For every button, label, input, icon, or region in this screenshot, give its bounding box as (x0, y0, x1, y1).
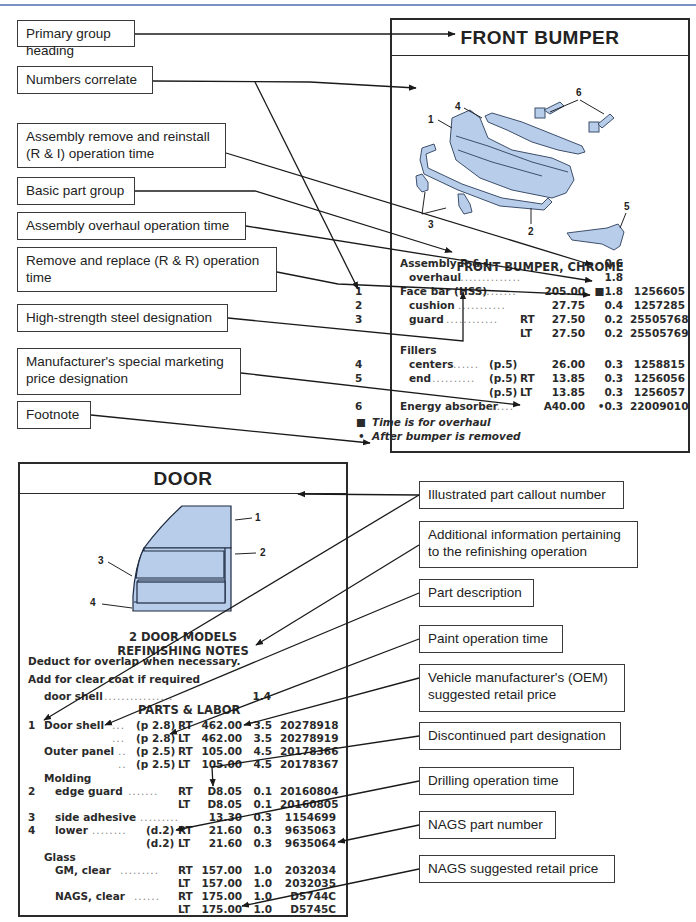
door-heading: DOOR (20, 464, 346, 494)
table-row: LT 157.00 1.0 2032035 (0, 876, 360, 890)
table-row: GM, clear ......... RT 157.00 1.0 203203… (0, 863, 360, 877)
table-row: door shell ................ 1.4 (0, 689, 360, 703)
table-row: LT 175.00 1.0 D5745C (0, 902, 360, 916)
table-row: 1 Face bar (HSS) ........ 205.00 ■1.8 12… (0, 284, 696, 298)
callout-paint-operation-time: Paint operation time (419, 625, 563, 653)
table-row: Assembly R & I ......... 0.6 (0, 256, 696, 270)
table-row: (d.2) LT 21.60 0.3 9635064 (0, 836, 360, 850)
callout-basic-part-group: Basic part group (17, 177, 135, 205)
front-bumper-heading: FRONT BUMPER (392, 20, 688, 56)
callout-oem-retail-price: Vehicle manufacturer's (OEM) suggested r… (419, 664, 625, 712)
front-bumper-illustration: 1 2 3 4 5 6 (392, 58, 688, 258)
table-row: 4 centers ...... (p.5) 26.00 0.3 1258815 (0, 357, 696, 371)
bumper-callout-3: 3 (428, 219, 434, 230)
table-row: Fillers (0, 343, 696, 357)
table-row: NAGS, clear ...... RT 175.00 1.0 D5744C (0, 889, 360, 903)
callout-discontinued-part: Discontinued part designation (419, 722, 621, 750)
table-row: 5 end .......... (p.5) RT 13.85 0.3 1256… (0, 371, 696, 385)
table-row: Outer panel .. (p 2.5) RT 105.00 4.5 201… (0, 744, 360, 758)
table-row: 6 Energy absorber ...... A40.00 •0.3 220… (0, 399, 696, 413)
table-row: LT D8.05 0.1 20160805 (0, 797, 360, 811)
table-row: .. (p 2.5) LT 105.00 4.5 20178367 (0, 757, 360, 771)
bumper-callout-6: 6 (576, 87, 582, 98)
table-row: 4 lower ........ (d.2) RT 21.60 0.3 9635… (0, 823, 360, 837)
refinish-note: Deduct for overlap when necessary. (0, 654, 360, 668)
callout-assembly-overhaul-time: Assembly overhaul operation time (17, 212, 246, 240)
parts-labor-title: PARTS & LABOR (138, 703, 240, 717)
door-callout-4: 4 (90, 597, 96, 608)
door-illustration: 1 2 3 4 (20, 496, 346, 616)
table-row: 2 edge guard ....... RT D8.05 0.1 201608… (0, 784, 360, 798)
top-rule (0, 4, 696, 6)
bumper-callout-1: 1 (428, 114, 434, 125)
footnote-row: ■ Time is for overhaul (0, 415, 696, 429)
table-row: (p.5) LT 13.85 0.3 1256057 (0, 385, 696, 399)
table-row: 2 cushion ........... 27.75 0.4 1257285 (0, 298, 696, 312)
table-row: Glass (0, 850, 360, 864)
table-row: LT 27.50 0.2 25505769 (0, 326, 696, 340)
door-callout-2: 2 (260, 547, 266, 558)
door-callout-1: 1 (255, 512, 261, 523)
callout-refinishing-info: Additional information pertaining to the… (419, 521, 638, 568)
footnote-mark: ■ (356, 415, 366, 429)
footnote-row: • After bumper is removed (0, 429, 696, 443)
bumper-callout-2: 2 (528, 226, 534, 237)
table-row: Molding (0, 771, 360, 785)
callout-numbers-correlate: Numbers correlate (17, 66, 153, 94)
callout-nags-retail-price: NAGS suggested retail price (419, 855, 615, 883)
callout-assembly-ri-time: Assembly remove and reinstall (R & I) op… (17, 123, 226, 168)
door-callout-3: 3 (98, 555, 104, 566)
callout-primary-group-heading: Primary group heading (17, 20, 135, 47)
table-row: 3 side adhesive ......... 13.30 0.3 1154… (0, 810, 360, 824)
table-row: 1 Door shell ... (p 2.8) RT 462.00 3.5 2… (0, 718, 360, 732)
callout-nags-part-number: NAGS part number (419, 811, 556, 839)
table-row: overhaul ............... 1.8 (0, 270, 696, 284)
callout-part-description: Part description (419, 579, 534, 607)
callout-drilling-time: Drilling operation time (419, 767, 574, 795)
footnote-mark: • (358, 429, 365, 443)
bumper-callout-4: 4 (455, 101, 461, 112)
bumper-callout-5: 5 (624, 201, 630, 212)
door-subtitle-models: 2 DOOR MODELS (20, 630, 346, 644)
callout-illustrated-part-number: Illustrated part callout number (419, 481, 624, 509)
table-row: 3 guard ............ RT 27.50 0.2 255057… (0, 312, 696, 326)
table-row: ... (p 2.8) LT 462.00 3.5 20278919 (0, 731, 360, 745)
refinish-note: Add for clear coat if required (0, 672, 360, 686)
